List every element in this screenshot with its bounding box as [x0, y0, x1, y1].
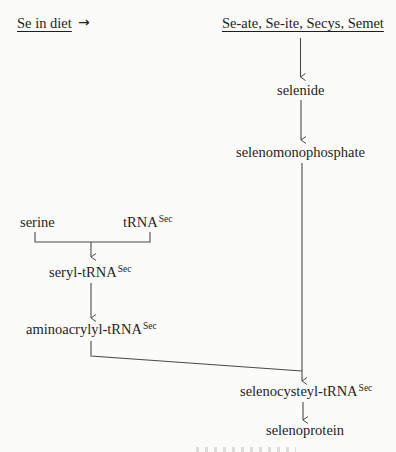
node-selenomonophosphate: selenomonophosphate [236, 144, 365, 160]
node-selenide: selenide [277, 82, 325, 98]
node-serine: serine [20, 214, 55, 230]
node-selenocysteyl-trna-sec: selenocysteyl-tRNASec [240, 383, 372, 401]
bracket-serine-trna [35, 232, 150, 242]
clipped-caption-fragment [196, 447, 296, 452]
node-label: seryl-tRNA [49, 264, 117, 280]
node-seryl-trna-sec: seryl-tRNASec [49, 264, 131, 282]
superscript-sec: Sec [118, 264, 132, 274]
right-arrow-icon: → [78, 14, 90, 30]
node-trna-sec: tRNASec [123, 214, 172, 232]
superscript-sec: Sec [159, 214, 173, 224]
node-label: aminoacrylyl-tRNA [26, 321, 142, 337]
connector-aminoacrylyl-to-merge [91, 341, 302, 371]
node-label: tRNA [123, 214, 158, 230]
node-label: selenocysteyl-tRNA [240, 383, 358, 399]
superscript-sec: Sec [359, 383, 373, 393]
node-selenoprotein: selenoprotein [266, 422, 344, 438]
selenium-sources-list: Se-ate, Se-ite, Secys, Semet [222, 15, 384, 31]
node-aminoacrylyl-trna-sec: aminoacrylyl-tRNASec [26, 321, 157, 339]
superscript-sec: Sec [143, 321, 157, 331]
source-label-se-in-diet: Se in diet [17, 15, 72, 31]
